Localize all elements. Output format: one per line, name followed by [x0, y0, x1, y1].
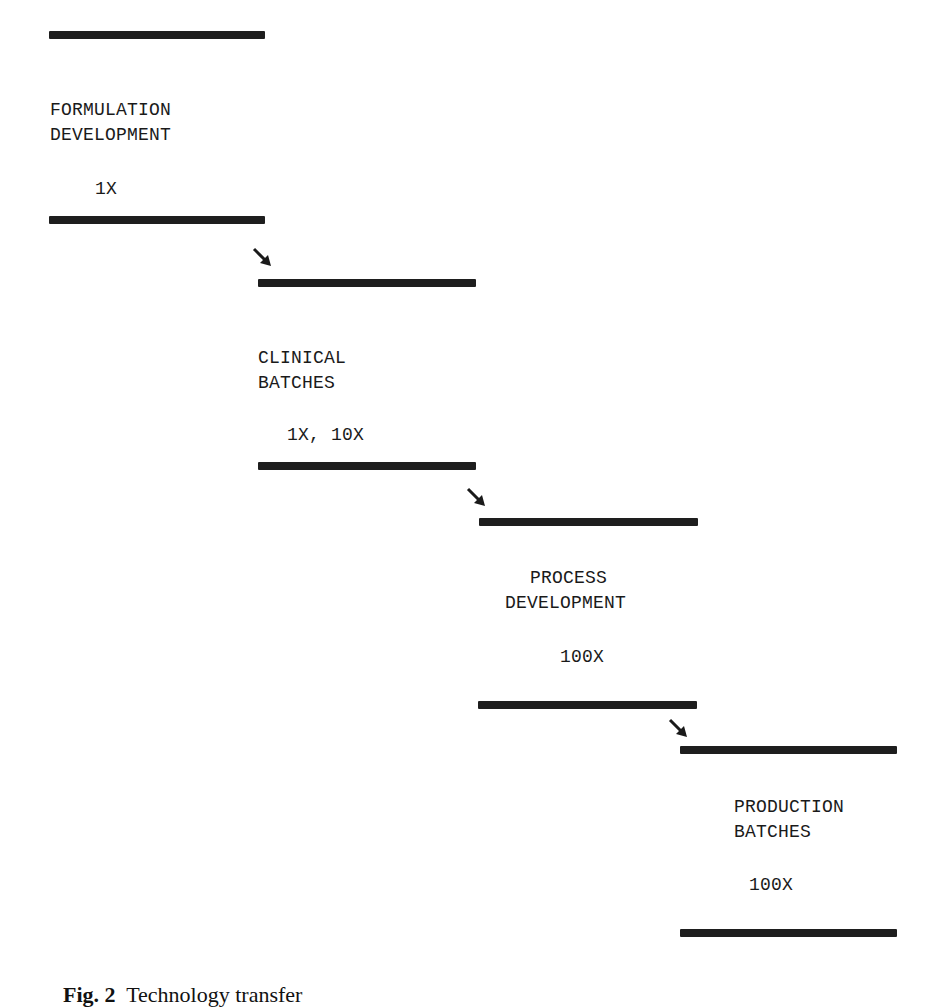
stage-4-title-line2: BATCHES — [734, 822, 811, 843]
stage-4-bottom-bar — [680, 929, 897, 937]
stage-2-scale: 1X, 10X — [287, 425, 364, 446]
arrow-down-right-icon — [252, 247, 274, 269]
stage-2-title-line1: CLINICAL — [258, 348, 346, 369]
stage-3-title-line2: DEVELOPMENT — [505, 593, 626, 614]
arrow-down-right-icon — [668, 718, 690, 740]
stage-4-scale: 100X — [749, 875, 793, 896]
stage-3-title-line1: PROCESS — [530, 568, 607, 589]
stage-4-title-line1: PRODUCTION — [734, 797, 844, 818]
stage-1-title-line1: FORMULATION — [50, 100, 171, 121]
figure-caption: Fig. 2 Technology transfer — [52, 956, 302, 1008]
figure-caption-text: Technology transfer — [126, 982, 302, 1007]
stage-1-top-bar — [49, 31, 265, 39]
stage-2-top-bar — [258, 279, 476, 287]
figure-label: Fig. 2 — [63, 982, 116, 1007]
arrow-down-right-icon — [466, 487, 488, 509]
stage-3-bottom-bar — [478, 701, 697, 709]
stage-1-scale: 1X — [95, 179, 117, 200]
stage-2-title-line2: BATCHES — [258, 373, 335, 394]
stage-2-bottom-bar — [258, 462, 476, 470]
stage-3-scale: 100X — [560, 647, 604, 668]
stage-4-top-bar — [680, 746, 897, 754]
stage-1-bottom-bar — [49, 216, 265, 224]
stage-1-title-line2: DEVELOPMENT — [50, 125, 171, 146]
stage-3-top-bar — [479, 518, 698, 526]
